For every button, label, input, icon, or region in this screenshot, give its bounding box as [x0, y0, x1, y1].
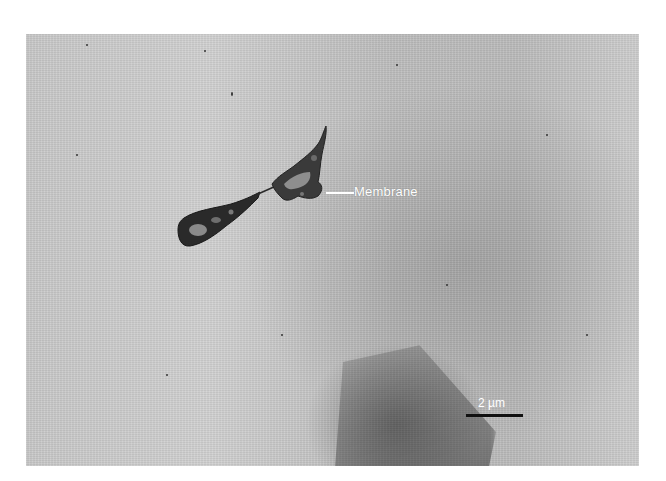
- membrane-label: Membrane: [354, 184, 418, 199]
- scale-bar: [466, 414, 523, 417]
- scale-bar-label: 2 µm: [478, 396, 505, 410]
- micrograph-image: Membrane 2 µm: [26, 34, 639, 466]
- membrane-leader-line: [326, 192, 354, 194]
- membrane-structure: [26, 34, 639, 466]
